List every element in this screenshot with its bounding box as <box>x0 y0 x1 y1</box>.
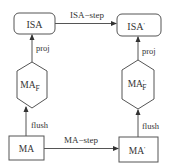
edge-flush-left-label: flush <box>31 120 49 130</box>
edge-proj-left-label: proj <box>36 43 50 53</box>
edge-ma-step: MA−step <box>44 135 118 149</box>
edge-flush-left: flush <box>26 107 49 136</box>
commuting-diagram: ISA ISA' ISA−step MAF MA'F proj proj MA … <box>0 0 169 167</box>
edge-proj-right: proj <box>138 37 156 60</box>
edge-flush-right: flush <box>138 110 160 137</box>
node-ma-f: MAF <box>17 62 47 108</box>
node-isa: ISA <box>14 13 55 34</box>
node-ma-f-label: MAF <box>20 80 39 93</box>
node-ma-label: MA <box>19 144 34 154</box>
node-ma-f-prime-label: MA'F <box>128 78 147 92</box>
node-isa-prime-label: ISA' <box>127 21 144 32</box>
node-ma-f-prime: MA'F <box>122 60 154 109</box>
node-isa-prime: ISA' <box>117 14 161 36</box>
edge-proj-left: proj <box>32 35 50 62</box>
node-isa-label: ISA <box>26 19 43 30</box>
edge-flush-right-label: flush <box>142 121 160 131</box>
edge-isa-step-label: ISA−step <box>70 10 105 20</box>
edge-proj-right-label: proj <box>142 46 156 56</box>
edge-isa-step: ISA−step <box>55 10 116 24</box>
edge-ma-step-label: MA−step <box>64 135 99 145</box>
node-ma-prime: MA' <box>119 137 158 162</box>
node-ma: MA <box>9 136 44 160</box>
node-ma-prime-label: MA' <box>129 145 146 156</box>
